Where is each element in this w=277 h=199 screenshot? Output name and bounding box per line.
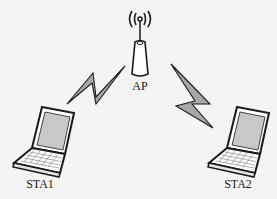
lightning-bolt-icon — [67, 66, 125, 104]
ap-label: AP — [128, 80, 152, 92]
sta2-label: STA2 — [218, 178, 258, 190]
sta1-label: STA1 — [20, 178, 60, 190]
access-point-icon — [130, 11, 151, 76]
laptop-icon — [13, 107, 74, 177]
lightning-bolt-icon — [171, 64, 213, 128]
network-diagram — [0, 0, 277, 199]
laptop-icon — [208, 107, 269, 177]
